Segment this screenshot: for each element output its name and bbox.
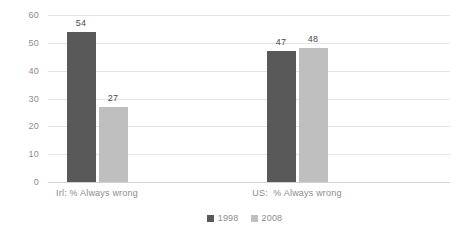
bar-value-label-irl-2008: 27 [108,93,118,103]
bar-value-label-us-2008: 48 [308,34,318,44]
gridline-0 [48,182,450,183]
legend-item-2008[interactable]: 2008 [251,213,283,223]
category-label-irl: Irl: % Always wrong [56,188,138,198]
plot-area: 605040302010054274748 [48,15,450,182]
gridline-40 [48,71,450,72]
legend-swatch-icon-2008 [251,215,258,222]
y-axis-tick-0: 0 [34,177,48,187]
category-label-us: US: % Always wrong [252,188,341,198]
gridline-50 [48,43,450,44]
bar-us-1998[interactable] [267,51,296,182]
legend-swatch-icon-1998 [207,215,214,222]
bar-value-label-irl-1998: 54 [76,18,86,28]
legend-item-1998[interactable]: 1998 [207,213,239,223]
bar-irl-2008[interactable] [99,107,128,182]
bar-irl-1998[interactable] [67,32,96,182]
y-axis-tick-10: 10 [29,149,48,159]
bar-us-2008[interactable] [299,48,328,182]
bar-value-label-us-1998: 47 [276,37,286,47]
legend-label-1998: 1998 [218,213,239,223]
legend-label-2008: 2008 [262,213,283,223]
y-axis-tick-40: 40 [29,66,48,76]
bar-chart: 605040302010054274748 19982008 Irl: % Al… [0,0,463,237]
chart-legend: 19982008 [0,213,463,223]
y-axis-tick-30: 30 [29,94,48,104]
y-axis-tick-50: 50 [29,38,48,48]
y-axis-tick-20: 20 [29,121,48,131]
y-axis-tick-60: 60 [29,10,48,20]
gridline-60 [48,15,450,16]
